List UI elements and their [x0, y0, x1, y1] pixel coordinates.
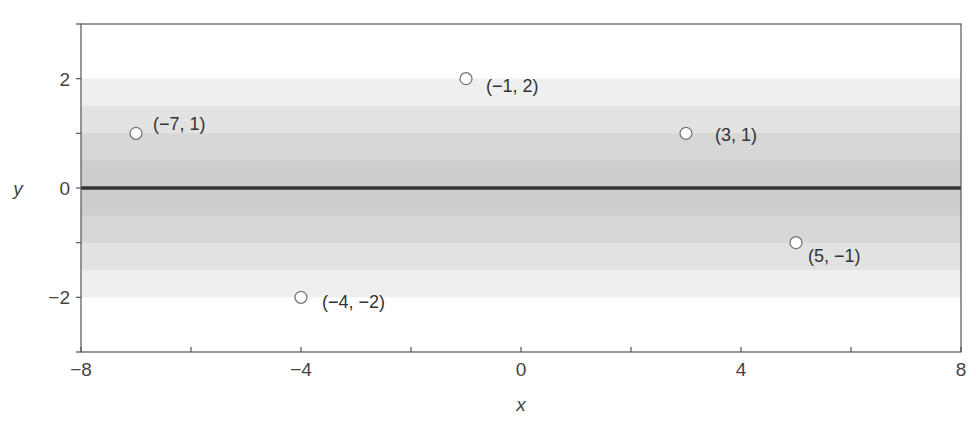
x-tick-label: −8: [70, 359, 92, 380]
data-point: [130, 127, 142, 139]
data-point: [790, 237, 802, 249]
data-point-label: (−7, 1): [153, 114, 206, 134]
x-tick-label: 4: [736, 359, 747, 380]
x-tick-label: 0: [516, 359, 527, 380]
x-axis-label: x: [515, 394, 527, 415]
y-axis-ticks: [76, 24, 81, 352]
data-point: [295, 291, 307, 303]
x-axis-ticks: [81, 347, 961, 352]
data-point-label: (−4, −2): [322, 292, 385, 312]
x-tick-label: −4: [290, 359, 312, 380]
y-tick-label: −2: [48, 287, 70, 308]
x-tick-label: 8: [956, 359, 967, 380]
data-point: [680, 127, 692, 139]
regression-chart: −8−4048 20−2 x y (−7, 1)(−4, −2)(−1, 2)(…: [0, 0, 976, 429]
data-point-label: (−1, 2): [486, 76, 539, 96]
y-axis-label: y: [11, 178, 24, 199]
data-point-label: (3, 1): [715, 125, 757, 145]
y-tick-label: 2: [59, 69, 70, 90]
y-axis-tick-labels: 20−2: [48, 69, 70, 309]
data-point: [460, 73, 472, 85]
y-tick-label: 0: [59, 178, 70, 199]
x-axis-tick-labels: −8−4048: [70, 359, 966, 380]
data-point-label: (5, −1): [808, 246, 861, 266]
